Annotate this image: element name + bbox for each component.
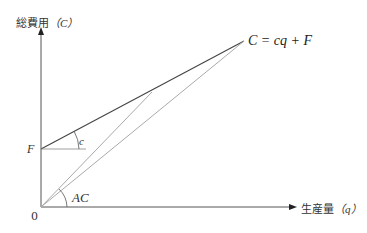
y-axis-label-text: 総費用 — [16, 17, 49, 30]
total-cost-line — [41, 41, 244, 149]
y-axis-label: 総費用（C） — [16, 14, 78, 30]
intercept-label: F — [27, 142, 34, 157]
x-axis-label-text: 生産量 — [301, 203, 334, 216]
x-axis-variable: （q） — [334, 203, 362, 215]
average-cost-label: AC — [72, 190, 89, 206]
x-axis-label: 生産量（q） — [301, 200, 362, 216]
y-axis-variable: （C） — [49, 17, 78, 29]
average-cost-ray-1 — [41, 92, 152, 207]
origin-label: 0 — [31, 210, 38, 223]
average-cost-ray-2 — [41, 41, 244, 207]
slope-label: c — [79, 135, 84, 147]
equation-label: C = cq + F — [248, 33, 312, 49]
x-axis-arrow-icon — [289, 204, 297, 210]
